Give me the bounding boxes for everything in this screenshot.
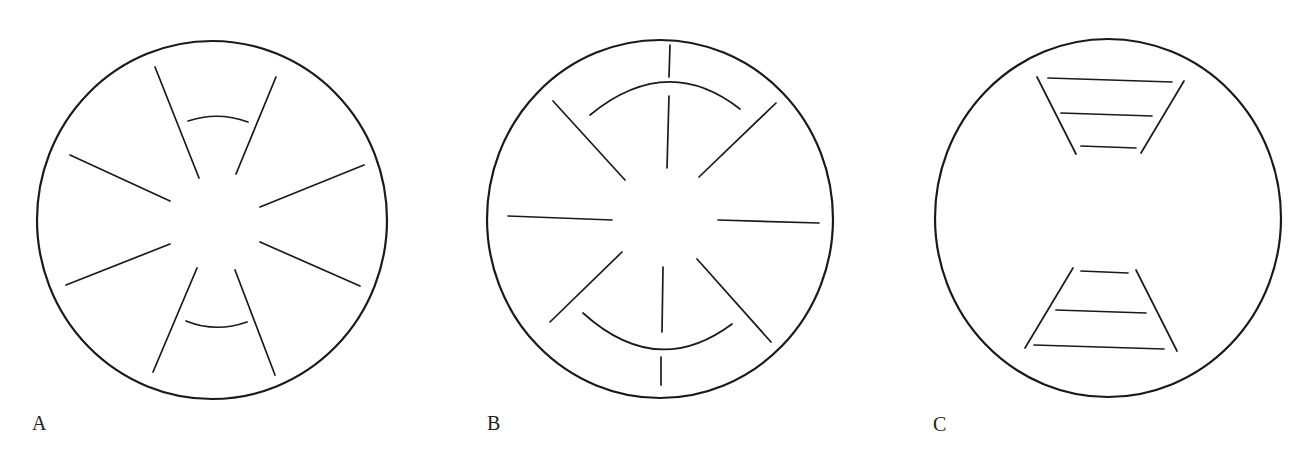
panel-c-top-ladder: [1037, 77, 1184, 154]
panel-c-top-ladder-right-rail: [1141, 81, 1184, 153]
panel-c: C: [933, 39, 1281, 435]
panel-a-arc-top: [188, 116, 248, 122]
panel-c-top-ladder-rung-2: [1061, 113, 1152, 116]
panel-c-bottom-ladder-rung-3: [1034, 345, 1164, 349]
panel-c-label: C: [933, 413, 946, 435]
panel-b-label: B: [487, 412, 500, 434]
panel-a-circle: [37, 41, 387, 399]
panel-c-top-ladder-rung-1: [1048, 78, 1172, 82]
panel-b-radial-lower-right: [697, 259, 771, 342]
panel-a-radial-right-lower: [260, 242, 360, 286]
panel-b-radial-top: [667, 96, 669, 168]
panel-a-radial-right-upper: [260, 165, 364, 207]
panel-a-radial-top-left: [155, 67, 199, 178]
panel-c-top-ladder-left-rail: [1037, 77, 1076, 154]
panel-b-radial-upper-left: [553, 101, 625, 180]
panel-b-radial-upper-right: [699, 103, 776, 177]
panel-a-radial-bottom-left: [153, 268, 197, 372]
panel-c-bottom-ladder-rung-2: [1056, 310, 1146, 313]
panel-a-radial-top-right: [236, 77, 276, 174]
figure-canvas: A B: [0, 0, 1307, 458]
panel-a-radial-left-lower: [66, 244, 170, 285]
panel-c-circle: [935, 39, 1281, 397]
panel-a-arc-bottom: [186, 321, 247, 327]
panel-b-radial-left: [508, 216, 612, 220]
panel-c-bottom-ladder: [1025, 268, 1177, 351]
panel-b-tick-top-outer: [669, 45, 670, 77]
panel-a-radial-left-upper: [70, 155, 170, 201]
panel-c-top-ladder-rung-3: [1081, 146, 1136, 148]
panel-a: A: [32, 41, 387, 434]
panel-c-bottom-ladder-left-rail: [1025, 268, 1073, 348]
panel-b-arc-top: [590, 82, 740, 115]
panel-b-circle: [487, 40, 833, 398]
panel-a-label: A: [32, 412, 47, 434]
panel-b-radial-lower-left: [550, 252, 622, 322]
panel-b: B: [487, 40, 833, 434]
panel-c-bottom-ladder-right-rail: [1136, 270, 1177, 351]
panel-c-bottom-ladder-rung-1: [1081, 271, 1128, 273]
panel-a-radial-bottom-right: [235, 270, 275, 375]
panel-b-radial-right: [718, 220, 819, 223]
panel-b-radial-bottom: [662, 267, 663, 332]
panel-b-arc-bottom: [583, 313, 732, 349]
